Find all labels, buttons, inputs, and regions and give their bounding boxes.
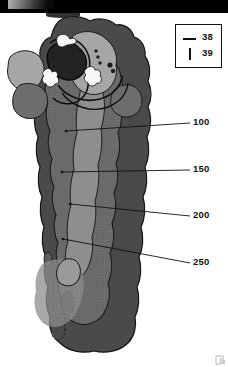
- figure-canvas: 38 39 100 150 200 250: [0, 0, 228, 367]
- anchor-dot-200: [69, 203, 72, 206]
- corner-mark-icon: [215, 354, 227, 366]
- anchor-dot-150: [61, 171, 64, 174]
- leader-line-150: [62, 170, 190, 172]
- callout-label-100: 100: [193, 116, 209, 127]
- callout-label-200: 200: [193, 209, 209, 220]
- leader-lines: [0, 0, 228, 367]
- callout-label-150: 150: [193, 163, 209, 174]
- leader-line-200: [70, 204, 190, 216]
- anchor-dot-100: [65, 130, 68, 133]
- anchor-dot-250: [62, 238, 65, 241]
- leader-line-250: [63, 239, 190, 263]
- leader-line-100: [66, 123, 190, 131]
- callout-label-250: 250: [193, 256, 209, 267]
